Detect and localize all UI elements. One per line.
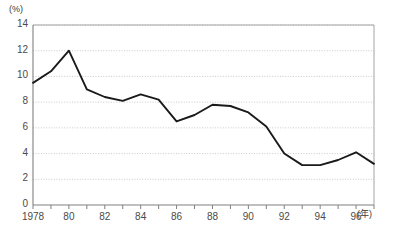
data-series-layer [33, 51, 374, 165]
gridlines [33, 25, 374, 179]
x-axis-ticks [33, 205, 374, 209]
axis-lines [33, 25, 374, 205]
data-line [33, 51, 374, 165]
plot-area [0, 0, 406, 230]
line-chart: (%) (年) 02468101214197880828486889092949… [0, 0, 406, 230]
